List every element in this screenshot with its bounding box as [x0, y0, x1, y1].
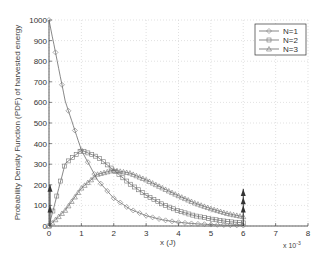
y-tick-label: 100: [34, 201, 48, 210]
y-tick-label: 200: [34, 181, 48, 190]
y-tick-label: 700: [34, 78, 48, 87]
legend: N=1N=2N=3: [255, 24, 306, 55]
svg-text:N=1: N=1: [283, 27, 298, 36]
svg-text:N=2: N=2: [283, 36, 298, 45]
x-axis-label: x (J): [160, 238, 176, 247]
x-axis-multiplier: x 10-3: [283, 240, 301, 249]
x-tick-label: 4: [176, 229, 181, 238]
y-tick-label: 300: [34, 160, 48, 169]
pdf-chart: 0123456780100200300400500600700800900100…: [0, 0, 327, 265]
x-tick-label: 5: [209, 229, 214, 238]
y-tick-label: 400: [34, 140, 48, 149]
x-tick-label: 7: [273, 229, 278, 238]
y-tick-label: 900: [34, 37, 48, 46]
y-tick-label: 800: [34, 57, 48, 66]
y-tick-label: 600: [34, 98, 48, 107]
x-tick-label: 8: [306, 229, 311, 238]
svg-text:N=3: N=3: [283, 45, 298, 54]
y-tick-label: 500: [34, 119, 48, 128]
y-tick-label: 1000: [29, 16, 47, 25]
x-tick-label: 1: [79, 229, 84, 238]
x-tick-label: 0: [47, 229, 52, 238]
x-tick-label: 6: [241, 229, 246, 238]
x-multiplier-base: x 10: [283, 242, 296, 249]
x-tick-label: 2: [112, 229, 117, 238]
x-multiplier-exponent: -3: [296, 240, 300, 246]
x-tick-label: 3: [144, 229, 149, 238]
y-axis-label: Probability Density Function (PDF) of ha…: [13, 23, 22, 223]
